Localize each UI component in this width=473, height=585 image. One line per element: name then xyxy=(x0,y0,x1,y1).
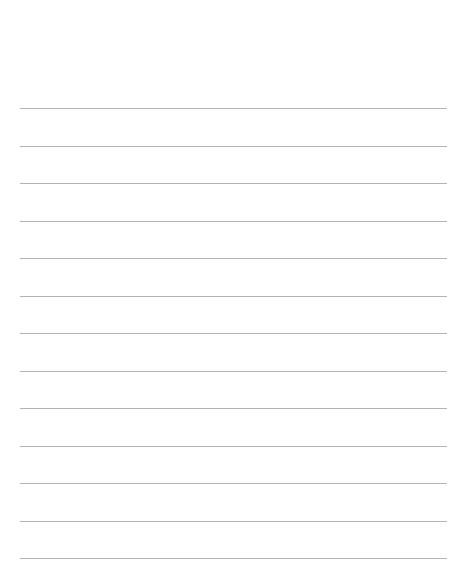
ruled-line xyxy=(20,183,447,184)
ruled-line xyxy=(20,108,447,109)
ruled-line xyxy=(20,371,447,372)
ruled-line xyxy=(20,296,447,297)
ruled-line xyxy=(20,521,447,522)
ruled-line xyxy=(20,558,447,559)
ruled-line xyxy=(20,446,447,447)
ruled-line xyxy=(20,146,447,147)
ruled-line xyxy=(20,483,447,484)
ruled-line xyxy=(20,258,447,259)
ruled-line xyxy=(20,333,447,334)
ruled-line xyxy=(20,221,447,222)
lined-paper-sheet xyxy=(0,0,473,585)
ruled-line xyxy=(20,408,447,409)
